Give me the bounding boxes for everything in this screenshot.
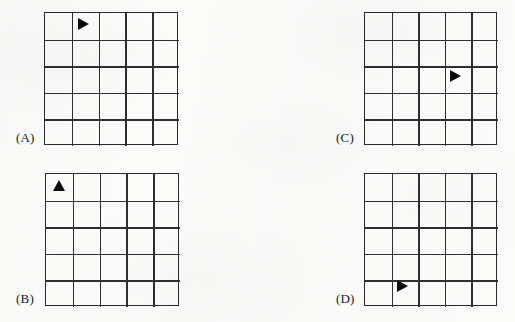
triangle-right-marker: [450, 70, 461, 82]
grid-line-vertical: [445, 13, 446, 146]
triangle-up-marker: [53, 180, 65, 191]
grid-line-vertical: [471, 13, 472, 146]
grid-c[interactable]: [364, 12, 497, 145]
grid-line-vertical: [471, 174, 472, 307]
grid-line-horizontal: [365, 40, 498, 41]
grid-line-vertical: [418, 13, 419, 146]
grid-line-horizontal: [45, 66, 179, 67]
grid-line-vertical: [72, 13, 73, 146]
grid-line-horizontal: [45, 119, 179, 120]
grid-line-horizontal: [46, 280, 180, 281]
grid-line-vertical: [445, 174, 446, 307]
choice-label-a: (A): [16, 130, 35, 146]
grid-line-horizontal: [365, 254, 498, 255]
triangle-right-marker: [397, 280, 408, 292]
grid-line-horizontal: [46, 254, 180, 255]
choice-label-c: (C): [336, 130, 354, 146]
choice-label-b: (B): [16, 291, 34, 307]
grid-line-horizontal: [365, 227, 498, 228]
triangle-right-marker: [78, 18, 89, 30]
grid-line-vertical: [153, 174, 154, 307]
grid-b[interactable]: [45, 173, 179, 306]
grid-line-vertical: [418, 174, 419, 307]
grid-a[interactable]: [44, 12, 178, 145]
grid-line-horizontal: [46, 201, 180, 202]
grid-line-horizontal: [365, 93, 498, 94]
grid-line-vertical: [73, 174, 74, 307]
grid-line-vertical: [152, 13, 153, 146]
grid-line-horizontal: [45, 40, 179, 41]
grid-line-horizontal: [365, 280, 498, 281]
grid-line-vertical: [125, 13, 126, 146]
grid-line-horizontal: [365, 201, 498, 202]
grid-line-vertical: [126, 174, 127, 307]
choice-label-d: (D): [336, 291, 355, 307]
grid-line-horizontal: [365, 119, 498, 120]
grid-line-horizontal: [46, 227, 180, 228]
grid-line-vertical: [392, 13, 393, 146]
grid-d[interactable]: [364, 173, 497, 306]
grid-line-vertical: [99, 13, 100, 146]
grid-line-vertical: [392, 174, 393, 307]
grid-line-vertical: [100, 174, 101, 307]
grid-line-horizontal: [365, 66, 498, 67]
grid-line-horizontal: [45, 93, 179, 94]
